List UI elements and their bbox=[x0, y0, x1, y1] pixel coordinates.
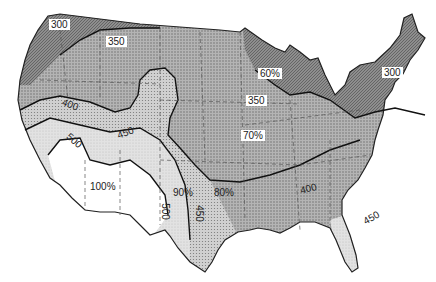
contour-label-350-midwest: 350 bbox=[246, 95, 267, 106]
percent-label-90: 90% bbox=[173, 187, 193, 198]
contour-label-450-texas: 450 bbox=[194, 205, 205, 222]
contour-label-500-texas: 500 bbox=[160, 203, 171, 220]
contour-label-300-west: 300 bbox=[49, 19, 70, 30]
contour-label-350-west: 350 bbox=[106, 36, 127, 47]
percent-label-70: 70% bbox=[241, 130, 265, 141]
contour-label-300-northeast: 300 bbox=[382, 67, 403, 78]
percent-label-100: 100% bbox=[90, 181, 116, 192]
percent-label-60: 60% bbox=[258, 68, 282, 79]
percent-label-80: 80% bbox=[214, 187, 234, 198]
